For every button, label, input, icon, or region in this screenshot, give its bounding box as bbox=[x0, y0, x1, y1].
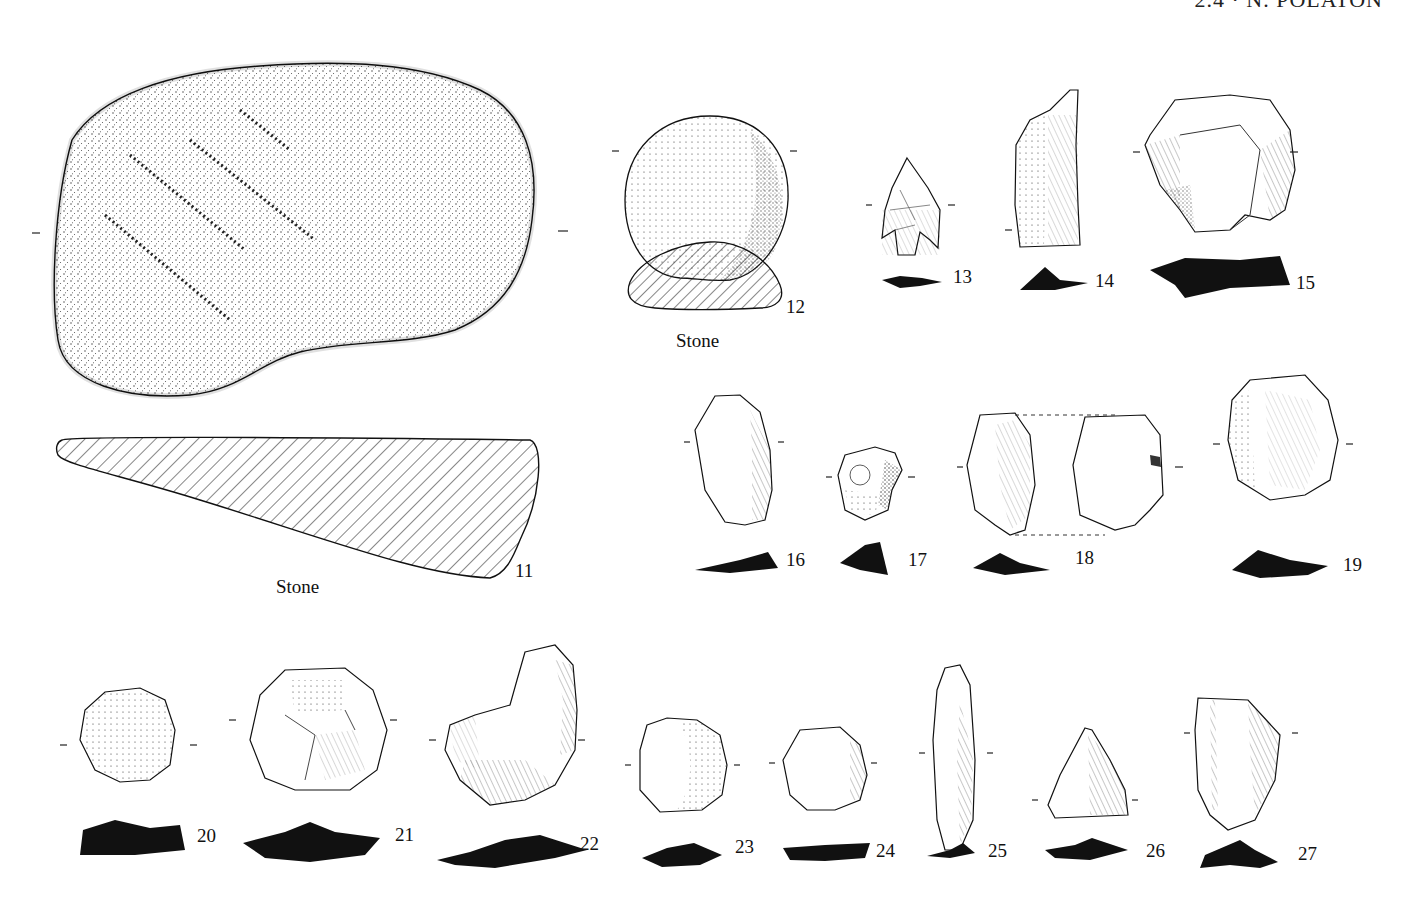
artifact-13-face bbox=[860, 150, 960, 300]
item-number-25: 25 bbox=[988, 840, 1007, 862]
item-number-21: 21 bbox=[395, 824, 414, 846]
item-number-14: 14 bbox=[1095, 270, 1114, 292]
caption-stone-11: Stone bbox=[276, 576, 319, 598]
item-number-13: 13 bbox=[953, 266, 972, 288]
item-number-17: 17 bbox=[908, 549, 927, 571]
item-number-24: 24 bbox=[876, 840, 895, 862]
artifact-11-face bbox=[0, 0, 580, 620]
item-number-27: 27 bbox=[1298, 843, 1317, 865]
item-number-23: 23 bbox=[735, 836, 754, 858]
item-number-26: 26 bbox=[1146, 840, 1165, 862]
item-number-12: 12 bbox=[786, 296, 805, 318]
caption-stone-12: Stone bbox=[676, 330, 719, 352]
item-number-16: 16 bbox=[786, 549, 805, 571]
item-number-19: 19 bbox=[1343, 554, 1362, 576]
artifact-16-face bbox=[680, 390, 790, 580]
running-header: 2.4 · N. POLATON bbox=[1194, 0, 1383, 13]
artifact-17-face bbox=[820, 435, 920, 585]
item-number-18: 18 bbox=[1075, 547, 1094, 569]
artifact-20-face bbox=[55, 680, 215, 890]
artifact-25-face bbox=[915, 660, 1035, 880]
artifact-21-face bbox=[225, 660, 405, 890]
artifact-14-face bbox=[1000, 85, 1100, 295]
item-number-15: 15 bbox=[1296, 272, 1315, 294]
item-number-20: 20 bbox=[197, 825, 216, 847]
item-number-11: 11 bbox=[515, 560, 533, 582]
item-number-22: 22 bbox=[580, 833, 599, 855]
